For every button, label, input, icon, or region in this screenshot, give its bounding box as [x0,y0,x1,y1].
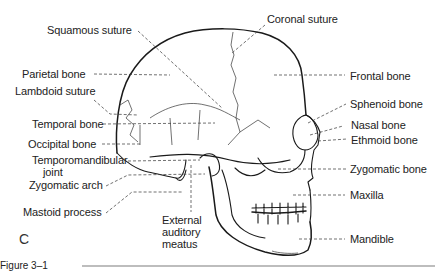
leader-lambdoid [94,100,138,115]
label-zygomatic-arch: Zygomatic arch [29,179,103,191]
leader-sphenoid [308,104,346,123]
label-squamous-suture: Squamous suture [47,24,132,36]
skull-diagram: Squamous suture Coronal suture Parietal … [0,0,435,271]
coronoid [235,168,265,176]
squamous-suture-line [150,103,240,120]
label-mastoid-process: Mastoid process [23,206,102,218]
label-coronal-suture: Coronal suture [267,13,338,25]
artist-signature [272,251,298,253]
coronal-suture-line [231,32,240,132]
lambdoid-suture-line [120,100,138,142]
leader-nasal [310,126,343,135]
label-occipital-bone: Occipital bone [28,138,96,150]
label-ethmoid-bone: Ethmoid bone [351,134,418,146]
label-external-auditory-meatus-line2: auditory [162,226,200,238]
zygomatic-arch [150,154,290,163]
temporal-sutures [140,110,270,145]
label-temporomandibular-joint-line1: Temporomandibular [32,154,128,166]
bite-line [252,211,306,213]
label-temporal-bone: Temporal bone [32,118,103,130]
label-external-auditory-meatus-line1: External [162,214,202,226]
label-frontal-bone: Frontal bone [350,70,411,82]
label-mandible: Mandible [350,233,394,245]
leader-squamous [138,31,222,108]
leader-mastoid [106,192,183,213]
leader-parietal [94,74,170,75]
label-external-auditory-meatus-line3: meatus [162,238,197,250]
nasal-outline [306,115,320,190]
leader-temporal [103,123,215,124]
label-temporomandibular-joint-line2: joint [43,166,63,178]
label-zygomatic-bone: Zygomatic bone [350,163,427,175]
cranium-outline [116,29,306,153]
lower-teeth [258,214,298,224]
leader-ethmoid [318,139,347,141]
figure-caption: Figure 3–1 [0,260,48,271]
leader-tmj [128,160,200,161]
label-lambdoid-suture: Lambdoid suture [15,85,95,97]
ramus-outline [222,170,265,238]
label-parietal-bone: Parietal bone [22,68,86,80]
leader-zygomatic-arch [106,174,205,186]
label-nasal-bone: Nasal bone [351,119,406,131]
label-sphenoid-bone: Sphenoid bone [350,98,423,110]
mastoid [176,170,186,180]
panel-letter: C [19,231,29,247]
label-maxilla: Maxilla [350,189,384,201]
caption-rule [82,265,435,267]
